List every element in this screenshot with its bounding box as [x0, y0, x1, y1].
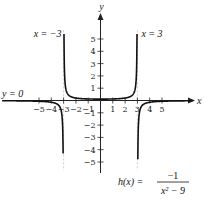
y-tick-label: −1: [84, 109, 96, 118]
x-axis-label: x: [196, 95, 202, 106]
x-tick-label: −4: [45, 105, 57, 114]
y-tick-label: −2: [84, 121, 96, 130]
function-label-denominator: x² − 9: [160, 185, 185, 196]
function-label-lhs: h(x) =: [118, 176, 143, 188]
asymptote-label-y-0: y = 0: [1, 88, 23, 99]
x-tick-label: 2: [123, 105, 128, 114]
asymptote-label-x-neg3: x = −3: [33, 28, 62, 39]
y-tick-label: 2: [90, 72, 95, 81]
function-graph: −5−4−3−2−112345−5−4−3−2−112345 yxx = −3x…: [0, 0, 204, 201]
y-tick-label: 5: [90, 35, 95, 44]
y-tick-label: −3: [84, 133, 96, 142]
y-axis-label: y: [98, 1, 104, 12]
x-tick-label: 1: [110, 105, 115, 114]
y-tick-label: −4: [84, 146, 96, 155]
function-label-numerator: −1: [168, 170, 179, 181]
y-tick-label: 3: [90, 60, 95, 69]
x-tick-label: −5: [33, 105, 45, 114]
x-tick-label: −2: [70, 105, 82, 114]
asymptote-label-x-3: x = 3: [140, 28, 162, 39]
y-tick-label: 1: [90, 84, 95, 93]
x-tick-label: 4: [147, 105, 152, 114]
y-tick-label: 4: [90, 47, 95, 56]
y-tick-label: −5: [84, 158, 96, 167]
x-tick-label: 5: [159, 105, 164, 114]
curve-right-branch: [138, 101, 193, 159]
